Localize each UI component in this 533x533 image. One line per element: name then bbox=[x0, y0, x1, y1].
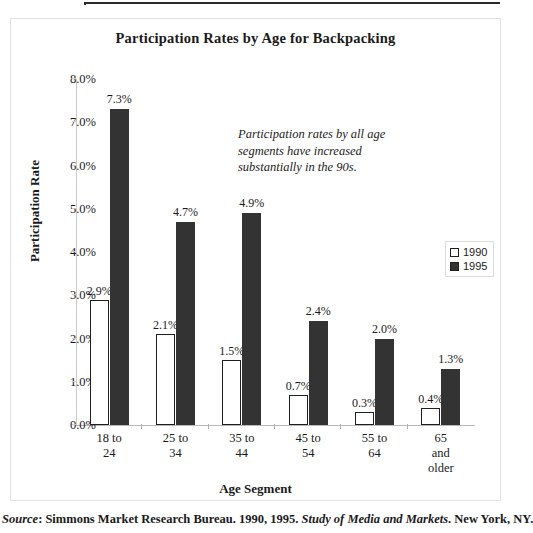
legend-item-1990[interactable]: 1990 bbox=[450, 245, 487, 259]
x-category-line: 35 to bbox=[209, 431, 275, 446]
x-category-label: 45 to54 bbox=[275, 431, 341, 461]
bar-value-label: 4.9% bbox=[239, 196, 264, 211]
x-axis-title: Age Segment bbox=[11, 481, 500, 497]
x-category-label: 55 to64 bbox=[341, 431, 407, 461]
y-axis-title: Participation Rate bbox=[27, 141, 43, 281]
bar-value-label: 0.3% bbox=[352, 396, 377, 411]
x-category-line: 64 bbox=[341, 446, 407, 461]
x-category-line: 18 to bbox=[76, 431, 142, 446]
x-category-line: 25 to bbox=[142, 431, 208, 446]
bar-1995-35-to-44[interactable]: 4.9% bbox=[242, 213, 261, 425]
source-publication: Study of Media and Markets bbox=[302, 512, 449, 526]
source-label: Source bbox=[2, 512, 38, 526]
x-category-line: 54 bbox=[275, 446, 341, 461]
x-category-line: 45 to bbox=[275, 431, 341, 446]
bar-1990-45-to-54[interactable]: 0.7% bbox=[289, 395, 308, 425]
x-category-line: 55 to bbox=[341, 431, 407, 446]
legend-swatch-1990 bbox=[450, 248, 459, 257]
source-location: . New York, NY. bbox=[448, 512, 533, 526]
bar-value-label: 2.4% bbox=[306, 304, 331, 319]
legend-label-1990: 1990 bbox=[463, 246, 487, 258]
x-category-label: 25 to34 bbox=[142, 431, 208, 461]
bar-1995-45-to-54[interactable]: 2.4% bbox=[309, 321, 328, 425]
x-category-line: 65 bbox=[408, 431, 474, 446]
bar-1995-55-to-64[interactable]: 2.0% bbox=[375, 339, 394, 426]
bar-value-label: 1.5% bbox=[219, 344, 244, 359]
bar-1990-65-and-older[interactable]: 0.4% bbox=[421, 408, 440, 425]
bar-1990-25-to-34[interactable]: 2.1% bbox=[156, 334, 175, 425]
bar-1990-35-to-44[interactable]: 1.5% bbox=[222, 360, 241, 425]
bar-value-label: 0.4% bbox=[418, 392, 443, 407]
bar-1995-25-to-34[interactable]: 4.7% bbox=[176, 222, 195, 425]
chart-annotation: Participation rates by all age segments … bbox=[238, 126, 398, 176]
chart-title: Participation Rates by Age for Backpacki… bbox=[11, 30, 500, 47]
x-category-line: 24 bbox=[76, 446, 142, 461]
legend-swatch-1995 bbox=[450, 262, 459, 271]
x-category-label: 18 to24 bbox=[76, 431, 142, 461]
x-category-line: 44 bbox=[209, 446, 275, 461]
bar-value-label: 2.1% bbox=[153, 318, 178, 333]
chart-legend: 19901995 bbox=[445, 241, 494, 277]
x-axis-line bbox=[76, 425, 475, 426]
x-category-line: and bbox=[408, 446, 474, 461]
x-category-label: 35 to44 bbox=[209, 431, 275, 461]
chart-frame: Participation Rates by Age for Backpacki… bbox=[10, 18, 501, 501]
bar-1990-55-to-64[interactable]: 0.3% bbox=[355, 412, 374, 425]
bar-1990-18-to-24[interactable]: 2.9% bbox=[90, 300, 109, 425]
x-category-line: older bbox=[408, 461, 474, 476]
page-rule-above-figure bbox=[84, 2, 500, 5]
source-publisher: Simmons Market Research Bureau. 1990, 19… bbox=[45, 512, 301, 526]
bar-value-label: 4.7% bbox=[173, 205, 198, 220]
bar-group: 2.1%4.7% bbox=[142, 79, 208, 425]
x-category-label: 65andolder bbox=[408, 431, 474, 476]
bar-value-label: 2.9% bbox=[87, 284, 112, 299]
bar-value-label: 2.0% bbox=[372, 322, 397, 337]
legend-label-1995: 1995 bbox=[463, 260, 487, 272]
bar-group: 2.9%7.3% bbox=[76, 79, 142, 425]
bar-value-label: 7.3% bbox=[107, 92, 132, 107]
legend-item-1995[interactable]: 1995 bbox=[450, 259, 487, 273]
x-category-line: 34 bbox=[142, 446, 208, 461]
bar-value-label: 1.3% bbox=[438, 352, 463, 367]
bar-1995-65-and-older[interactable]: 1.3% bbox=[441, 369, 460, 425]
bar-value-label: 0.7% bbox=[286, 379, 311, 394]
source-footnote: Source: Simmons Market Research Bureau. … bbox=[2, 512, 513, 527]
bar-1995-18-to-24[interactable]: 7.3% bbox=[110, 109, 129, 425]
